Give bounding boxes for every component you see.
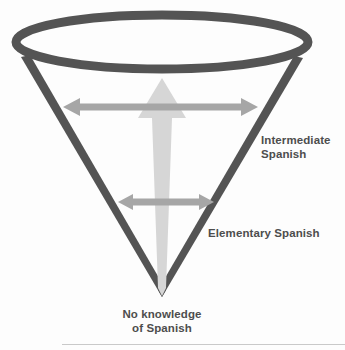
label-elementary-spanish: Elementary Spanish [208, 226, 320, 240]
cone-left-side [21, 55, 166, 297]
bottom-divider [62, 344, 345, 345]
cone-graphic [0, 0, 345, 350]
label-no-knowledge-of-spanish: No knowledge of Spanish [0, 307, 324, 335]
cone-rim-ellipse [16, 15, 308, 69]
cone-right-side [158, 56, 303, 297]
label-intermediate-spanish: Intermediate Spanish [261, 133, 331, 161]
cone-diagram: Intermediate Spanish Elementary Spanish … [0, 0, 345, 350]
